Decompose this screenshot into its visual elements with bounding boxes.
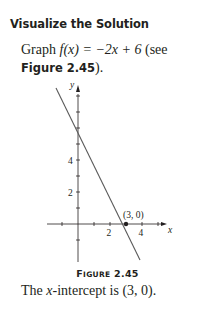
x-axis-label: x bbox=[167, 225, 173, 235]
function-line bbox=[56, 88, 140, 260]
y-axis-arrow-icon bbox=[76, 85, 80, 92]
y-tick-label-4: 4 bbox=[68, 156, 73, 166]
x-intercept-point bbox=[124, 222, 128, 226]
x-axis bbox=[47, 222, 164, 226]
y-tick-label-2: 2 bbox=[68, 188, 73, 198]
x-tick-label-2: 2 bbox=[107, 228, 112, 238]
x-tick-label-4: 4 bbox=[139, 228, 144, 238]
function-graph: (3, 0) 2 4 2 4 x y bbox=[0, 0, 205, 268]
point-label: (3, 0) bbox=[123, 210, 144, 221]
y-axis-label: y bbox=[69, 80, 75, 90]
y-axis bbox=[76, 94, 80, 262]
figure-caption: FIGURE 2.45 bbox=[0, 268, 205, 279]
x-axis-arrow-icon bbox=[161, 222, 167, 226]
conclusion-text: The x-intercept is (3, 0). bbox=[21, 283, 156, 299]
